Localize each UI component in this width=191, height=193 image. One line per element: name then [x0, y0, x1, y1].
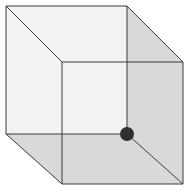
- necker-cube-diagram: [0, 0, 191, 193]
- cube-drawing: [0, 0, 191, 193]
- vertex-dot: [120, 127, 134, 141]
- dot-icon: [120, 127, 134, 141]
